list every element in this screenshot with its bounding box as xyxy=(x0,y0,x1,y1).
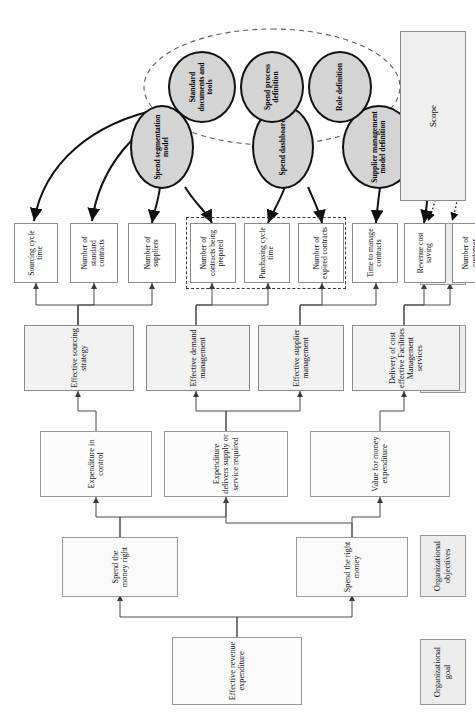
node-criteria-effective-supplier-management[interactable]: Effective supplier management xyxy=(258,325,344,391)
node-label: Supplier management model definition xyxy=(371,109,388,185)
figure-page: Organizational goal Organizational objec… xyxy=(0,0,475,723)
node-label: Revenue cost saving xyxy=(417,226,434,280)
node-metric-sourcing-cycle-time[interactable]: Sourcing cycle time xyxy=(14,223,58,283)
node-metric-number-of-suppliers[interactable]: Number of suppliers xyxy=(128,223,176,283)
node-label: Spend segmentation model xyxy=(154,109,171,185)
node-metric-purchasing-cycle-time[interactable]: Purchasing cycle time xyxy=(244,223,290,283)
row-label-organizational-objectives: Organizational objectives xyxy=(420,535,466,597)
node-label: Purchasing cycle time xyxy=(259,226,276,280)
node-label: Spend process definition xyxy=(264,55,281,119)
figure-caption: Fig. 2. Example of benefit map for procu… xyxy=(467,719,473,723)
row-label-text: Organizational goal xyxy=(433,642,452,702)
node-label: Sourcing cycle time xyxy=(28,226,45,280)
node-objective-value-for-money-expenditure[interactable]: Value for money expenditure xyxy=(310,431,450,497)
node-metric-revenue-cost-saving[interactable]: Revenue cost saving xyxy=(404,223,446,283)
node-criteria-delivery-of-cost-effective-fm-services[interactable]: Delivery of cost effective Facilities Ma… xyxy=(352,325,460,391)
benefit-map-diagram: Organizational goal Organizational objec… xyxy=(0,0,475,723)
node-metric-number-of-contracts-being-prepared[interactable]: Number of contracts being prepared xyxy=(190,223,236,283)
scope-label: Scope xyxy=(428,105,438,127)
node-label: Spend the money right xyxy=(111,540,130,594)
node-label: Number of standard contracts xyxy=(81,226,107,280)
node-label: Number of contracts being prepared xyxy=(200,226,226,280)
node-label: Spend dashboard xyxy=(279,119,288,176)
row-label-organizational-goal: Organizational goal xyxy=(420,639,466,705)
scope-legend-box: Scope xyxy=(400,31,466,201)
node-enabler-spend-process-definition[interactable]: Spend process definition xyxy=(240,51,304,123)
node-label: Expenditure delivers supply or service r… xyxy=(212,434,240,494)
node-objective-expenditure-delivers-supply[interactable]: Expenditure delivers supply or service r… xyxy=(164,431,288,497)
node-label: Effective revenue expenditure xyxy=(228,640,247,702)
node-label: Time to manage contracts xyxy=(367,226,384,280)
node-enabler-role-definition[interactable]: Role definition xyxy=(308,51,372,123)
node-criteria-effective-demand-management[interactable]: Effective demand management xyxy=(146,325,250,391)
node-label: Number of expired contracts xyxy=(313,226,330,280)
node-objective-expenditure-in-control[interactable]: Expenditure in control xyxy=(40,431,152,497)
node-criteria-effective-sourcing-strategy[interactable]: Effective sourcing strategy xyxy=(24,325,134,391)
node-label: Effective supplier management xyxy=(292,328,310,388)
node-label: Delivery of cost effective Facilities Ma… xyxy=(388,328,424,388)
node-enabler-standard-documents-and-tools[interactable]: Standard documents and tools xyxy=(168,51,236,123)
row-label-text: Organizational objectives xyxy=(433,538,452,594)
node-label: Spend the right money xyxy=(343,540,362,594)
node-label: Value for money expenditure xyxy=(371,434,390,494)
node-label: Standard documents and tools xyxy=(189,55,215,119)
node-goal-spend-the-right-money[interactable]: Spend the right money xyxy=(296,537,408,597)
node-label: Number of customer complaints xyxy=(462,226,475,280)
node-metric-number-of-standard-contracts[interactable]: Number of standard contracts xyxy=(70,223,118,283)
node-goal-spend-the-money-right[interactable]: Spend the money right xyxy=(62,537,178,597)
node-label: Role definition xyxy=(336,63,345,111)
node-root-effective-revenue-expenditure[interactable]: Effective revenue expenditure xyxy=(172,637,302,705)
node-metric-number-of-expired-contracts[interactable]: Number of expired contracts xyxy=(298,223,344,283)
node-label: Expenditure in control xyxy=(87,434,106,494)
node-label: Effective demand management xyxy=(189,328,207,388)
node-label: Number of suppliers xyxy=(144,226,161,280)
node-metric-number-of-customer-complaints[interactable]: Number of customer complaints xyxy=(452,223,475,283)
node-label: Effective sourcing strategy xyxy=(70,328,88,388)
node-metric-time-to-manage-contracts[interactable]: Time to manage contracts xyxy=(352,223,398,283)
